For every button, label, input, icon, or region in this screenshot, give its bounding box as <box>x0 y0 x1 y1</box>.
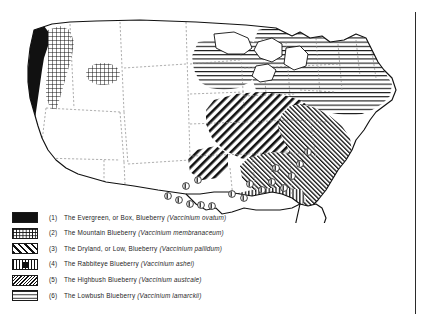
legend-item-rabbiteye[interactable]: (4)The Rabbiteye Blueberry (Vaccinium as… <box>12 257 312 273</box>
legend-common-name: The Highbush Blueberry <box>64 276 137 283</box>
region-mountain-idaho-patch <box>86 63 120 85</box>
legend-item-lowbush[interactable]: (6)The Lowbush Blueberry (Vaccinium lama… <box>12 288 312 304</box>
diagonal-hatch-swatch-icon <box>12 243 38 254</box>
fine-hatch-swatch-icon <box>12 275 38 286</box>
legend-item-highbush[interactable]: (5)The Highbush Blueberry (Vaccinium aus… <box>12 272 312 288</box>
map-svg <box>0 8 412 223</box>
legend-item-number: (4) <box>49 261 64 267</box>
figure-page: (1)The Evergreen, or Box, Blueberry (Vac… <box>0 0 424 322</box>
legend-scientific-name: (Vaccinium ovatum) <box>167 214 226 221</box>
legend-item-label: (4)The Rabbiteye Blueberry (Vaccinium as… <box>49 261 194 267</box>
legend-common-name: The Evergreen, or Box, Blueberry <box>64 214 165 221</box>
legend-scientific-name: (Vaccinium pallidum) <box>159 245 222 252</box>
legend-item-evergreen[interactable]: (1)The Evergreen, or Box, Blueberry (Vac… <box>12 210 312 226</box>
legend-common-name: The Mountain Blueberry <box>64 229 136 236</box>
grid-fill-swatch-icon <box>12 228 38 239</box>
legend-common-name: The Lowbush Blueberry <box>64 292 135 299</box>
us-distribution-map <box>0 8 412 223</box>
horizontal-line-swatch-icon <box>12 290 38 301</box>
legend-common-name: The Rabbiteye Blueberry <box>64 260 139 267</box>
legend-scientific-name: (Vaccinium ashei) <box>141 260 195 267</box>
legend-item-number: (6) <box>49 293 64 299</box>
vertical-bar-swatch-icon <box>12 259 38 270</box>
map-legend: (1)The Evergreen, or Box, Blueberry (Vac… <box>12 210 312 304</box>
legend-item-mountain[interactable]: (2)The Mountain Blueberry (Vaccinium mem… <box>12 226 312 242</box>
legend-item-dryland[interactable]: (3)The Dryland, or Low, Blueberry (Vacci… <box>12 241 312 257</box>
right-divider-rule <box>415 12 416 314</box>
legend-item-label: (3)The Dryland, or Low, Blueberry (Vacci… <box>49 246 222 252</box>
solid-fill-swatch-icon <box>12 212 38 223</box>
legend-item-number: (3) <box>49 246 64 252</box>
legend-scientific-name: (Vaccinium membranaceum) <box>138 229 224 236</box>
legend-item-label: (2)The Mountain Blueberry (Vaccinium mem… <box>49 230 224 236</box>
legend-item-number: (5) <box>49 277 64 283</box>
legend-common-name: The Dryland, or Low, Blueberry <box>64 245 158 252</box>
legend-scientific-name: (Vaccinium lamarckii) <box>137 292 201 299</box>
legend-scientific-name: (Vaccinium austcale) <box>139 276 202 283</box>
legend-item-number: (1) <box>49 215 64 221</box>
legend-item-label: (6)The Lowbush Blueberry (Vaccinium lama… <box>49 293 202 299</box>
legend-item-number: (2) <box>49 230 64 236</box>
legend-item-label: (1)The Evergreen, or Box, Blueberry (Vac… <box>49 215 226 221</box>
legend-item-label: (5)The Highbush Blueberry (Vaccinium aus… <box>49 277 202 283</box>
